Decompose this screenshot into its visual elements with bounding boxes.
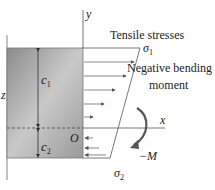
negative-bending-label-2: moment	[149, 78, 189, 92]
sigma2-label: σ2	[114, 166, 124, 182]
moment-arrow-icon	[134, 108, 146, 145]
y-axis-label: y	[85, 7, 92, 21]
tensile-stresses-label: Tensile stresses	[110, 28, 184, 42]
sigma1-label: σ1	[143, 41, 153, 57]
beam-stress-diagram: z y x O c1 c2 Tensile stresses σ1 Negati…	[0, 0, 215, 190]
moment-arrowhead-icon	[130, 140, 139, 149]
negative-bending-label-1: Negative bending	[127, 61, 212, 75]
z-axis-label: z	[0, 88, 6, 102]
moment-label: −M	[139, 149, 158, 163]
x-axis-label: x	[159, 113, 166, 127]
origin-label: O	[70, 131, 79, 145]
compression-arrows	[85, 138, 106, 155]
